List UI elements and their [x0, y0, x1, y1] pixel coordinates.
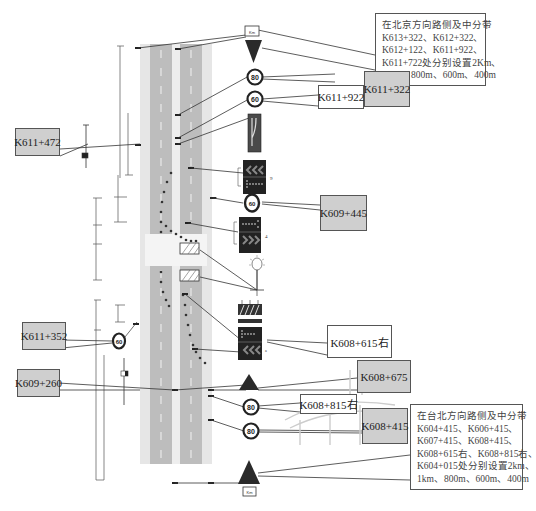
distance-plate-icon: Km: [245, 26, 259, 36]
chevron-arrow-board-icon: 9: [238, 160, 273, 194]
svg-text:60: 60: [116, 339, 123, 345]
chevron-arrow-board-icon: 4: [234, 217, 268, 253]
svg-text:60: 60: [249, 201, 256, 207]
distance-plate-icon: Km: [243, 487, 256, 496]
svg-text:80: 80: [251, 74, 259, 81]
lane-merge-icon: [248, 114, 261, 152]
callout-k611-922: K611+922: [318, 85, 364, 109]
svg-text:Km: Km: [249, 30, 256, 35]
callout-k609-445: K609+445: [320, 195, 367, 231]
speed-limit-80-icon: 80: [244, 424, 259, 439]
note-line: K612+122、K611+922、: [382, 44, 479, 57]
speed-limit-80-icon: 80: [244, 400, 259, 415]
note-line: K611+722处分别设置2Km、: [382, 57, 479, 70]
note-line: K608+615右、K608+815右、: [417, 448, 516, 461]
callout-label: K609+445: [320, 207, 367, 219]
note-line: K604+015处分别设置2km、: [417, 460, 516, 473]
speed-limit-60-left-icon: 60: [113, 322, 137, 349]
note-line: K607+415、K608+415、: [417, 435, 516, 448]
callout-k611-322: K611+322: [364, 71, 410, 107]
speed-limit-60-icon: 60: [248, 92, 263, 107]
callout-label: K608+815右: [299, 396, 357, 412]
callout-label: K608+615右: [330, 334, 388, 350]
dimension-lines: [93, 46, 133, 480]
svg-text:a: a: [265, 348, 267, 353]
warning-triangle-icon: [239, 374, 259, 390]
note-line: K604+415、K606+415、: [417, 423, 516, 436]
note-line: 在台北方向路侧及中分带: [417, 410, 516, 423]
svg-text:4: 4: [265, 234, 268, 239]
warning-triangle-icon: [245, 40, 262, 63]
sign-stack: Km 80 60 9 60: [234, 26, 273, 496]
callout-label: K609+260: [15, 377, 62, 389]
svg-text:80: 80: [247, 404, 255, 411]
callout-k611-472: K611+472: [15, 128, 60, 156]
note-taibei-direction: 在台北方向路侧及中分带 K604+415、K606+415、 K607+415、…: [410, 404, 523, 490]
callout-label: K611+472: [14, 136, 61, 148]
callout-k608-415: K608+415: [362, 408, 408, 444]
callout-k611-352: K611+352: [22, 322, 66, 350]
note-line: K613+322、K612+322、: [382, 32, 479, 45]
callout-label: K608+415: [361, 420, 408, 432]
callout-label: K611+922: [318, 91, 365, 103]
svg-text:80: 80: [247, 428, 255, 435]
callout-label: K611+352: [21, 330, 68, 342]
svg-text:60: 60: [251, 96, 259, 103]
callout-label: K611+322: [364, 83, 411, 95]
note-line: 1km、800m、600m、400m: [417, 473, 516, 486]
callout-label: K608+675: [360, 371, 407, 383]
barrier-arrow-board-icon: a: [238, 300, 267, 360]
callout-k608-675: K608+675: [357, 360, 411, 393]
note-line: 在北京方向路侧及中分带: [382, 19, 479, 32]
left-temporary-sign-poles: [82, 125, 128, 405]
roadway: [133, 44, 216, 484]
callout-k608-615-right: K608+615右: [327, 325, 392, 358]
speed-limit-80-icon: 80: [248, 70, 263, 85]
svg-text:9: 9: [270, 176, 273, 181]
speed-limit-60-icon: 60: [245, 195, 259, 212]
svg-text:Km: Km: [247, 490, 254, 495]
callout-k608-815-right: K608+815右: [300, 394, 357, 414]
callout-k609-260: K609+260: [17, 369, 60, 397]
warning-triangle-icon: [238, 460, 260, 484]
